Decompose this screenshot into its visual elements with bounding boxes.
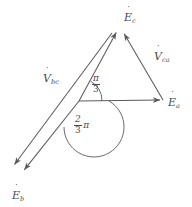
label-e-b: ˙ E b xyxy=(12,186,24,203)
phasor-diagram-figure: ˙ E a ˙ E b ˙ E c ˙ V bc xyxy=(0,0,192,207)
two-thirds-pi-symbol: π xyxy=(82,121,89,130)
diagram-canvas xyxy=(0,0,192,207)
pi-over-3-denominator: 3 xyxy=(92,84,100,95)
dot-accent-e-a: ˙ xyxy=(170,91,175,100)
two-thirds-pi-numerator: 2 xyxy=(74,115,82,125)
dot-accent-e-b: ˙ xyxy=(14,184,19,193)
dot-accent-v-bc: ˙ xyxy=(45,67,50,76)
vector-e-a xyxy=(79,100,160,101)
subscript-e-b: b xyxy=(20,195,24,203)
subscript-e-a: a xyxy=(176,102,180,110)
two-thirds-pi-denominator: 3 xyxy=(74,125,82,136)
dot-accent-v-ca: ˙ xyxy=(156,45,161,54)
vector-v-bc xyxy=(15,33,113,165)
label-v-bc: ˙ V bc xyxy=(43,69,59,86)
subscript-v-ca: ca xyxy=(162,56,170,64)
angle-label-two-thirds-pi: 2 3 π xyxy=(74,115,89,135)
arc-two-thirds-pi xyxy=(64,101,124,157)
pi-over-3-numerator: π xyxy=(92,74,100,84)
subscript-v-bc: bc xyxy=(51,78,59,86)
dot-accent-e-c: ˙ xyxy=(126,6,131,15)
subscript-e-c: c xyxy=(132,17,136,25)
angle-label-pi-over-3: π 3 xyxy=(92,74,100,94)
label-e-a: ˙ E a xyxy=(168,93,180,110)
vector-e-b xyxy=(24,101,79,170)
label-v-ca: ˙ V ca xyxy=(154,47,170,64)
label-e-c: ˙ E c xyxy=(124,8,136,25)
